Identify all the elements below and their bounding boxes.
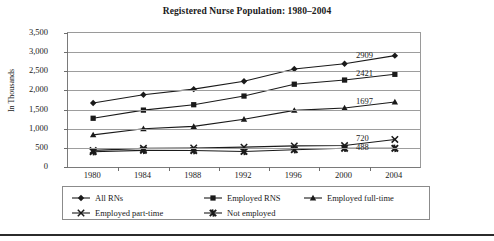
legend-label: Employed part-time [95,208,163,218]
data-point-marker [90,100,96,106]
x-tick-label: 1996 [273,170,313,180]
legend-marker-diamond-icon [71,192,91,204]
data-point-marker [191,102,196,107]
series-employed-full-time [90,99,398,138]
data-point-marker [392,52,398,58]
legend-marker-square-icon [203,192,223,204]
legend-row: Employed part-timeNot employed [63,205,429,221]
gridline [68,110,420,111]
data-point-marker [392,99,398,105]
data-point-marker [241,78,247,84]
y-tick-label: 1,000 [8,124,48,132]
data-point-marker [210,195,215,200]
y-tick-label: 500 [8,143,48,151]
series-end-label: 2909 [356,50,373,60]
x-tick-mark [169,167,170,171]
plot-wrapper: In Thousands 05001,0001,5002,0002,5003,0… [0,24,494,176]
series-end-label: 488 [356,142,369,152]
legend-label: Employed full-time [327,193,394,203]
x-tick-label: 1984 [122,170,162,180]
legend-item-employed-rns[interactable]: Employed RNS [203,190,281,206]
legend-item-not-employed[interactable]: Not employed [203,205,275,221]
x-tick-label: 1992 [223,170,263,180]
legend-marker-asterisk-icon [203,207,223,219]
y-tick-label: 0 [8,162,48,170]
legend-label: Employed RNS [227,193,281,203]
data-point-marker [241,93,246,98]
y-axis-tick-labels: 05001,0001,5002,0002,5003,0003,500 [8,32,48,166]
legend-marker-triangle-icon [303,192,323,204]
x-axis-tick-labels: 1980198419881992199620002004 [67,24,419,25]
chart-title: Registered Nurse Population: 1980–2004 [0,6,494,16]
chart-legend: All RNsEmployed RNSEmployed full-timeEmp… [62,186,430,220]
x-tick-label: 1988 [173,170,213,180]
data-point-marker [91,116,96,121]
x-tick-mark [370,167,371,171]
legend-label: Not employed [227,208,275,218]
y-tick-label: 2,500 [8,66,48,74]
x-tick-label: 2004 [374,170,414,180]
chart-figure: Registered Nurse Population: 1980–2004 I… [0,0,494,241]
x-tick-label: 1980 [72,170,112,180]
legend-label: All RNs [95,193,123,203]
y-tick-mark [64,90,68,91]
series-end-label: 1697 [356,96,373,106]
y-tick-mark [64,110,68,111]
data-point-marker [292,82,297,87]
legend-item-employed-part-time[interactable]: Employed part-time [71,205,163,221]
x-tick-mark [319,167,320,171]
data-point-marker [342,77,347,82]
series-end-label: 2421 [356,68,373,78]
y-tick-mark [64,167,68,168]
y-tick-mark [64,33,68,34]
legend-marker-x-icon [71,207,91,219]
y-tick-mark [64,71,68,72]
y-tick-label: 3,000 [8,47,48,55]
y-tick-mark [64,52,68,53]
gridline [68,90,420,91]
data-point-marker [392,72,397,77]
x-tick-mark [219,167,220,171]
data-point-marker [78,195,84,201]
y-tick-label: 3,500 [8,28,48,36]
legend-row: All RNsEmployed RNSEmployed full-time [63,190,429,206]
x-tick-mark [118,167,119,171]
data-point-marker [341,61,347,67]
y-tick-mark [64,148,68,149]
y-tick-label: 1,500 [8,105,48,113]
gridline [68,129,420,130]
y-tick-mark [64,129,68,130]
x-tick-label: 2000 [324,170,364,180]
legend-item-all-rns[interactable]: All RNs [71,190,123,206]
footer-rule [0,234,494,236]
data-point-marker [140,92,146,98]
legend-item-employed-full-time[interactable]: Employed full-time [303,190,394,206]
y-tick-label: 2,000 [8,85,48,93]
x-tick-mark [269,167,270,171]
